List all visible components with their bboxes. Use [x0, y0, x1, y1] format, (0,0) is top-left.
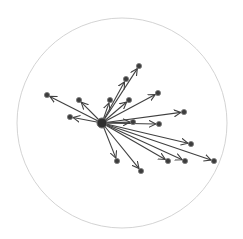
leaf-node[interactable]	[126, 97, 131, 102]
network-diagram	[0, 0, 243, 239]
leaf-node[interactable]	[76, 97, 81, 102]
edge-arrow	[102, 69, 137, 123]
leaf-node[interactable]	[107, 97, 112, 102]
edge-group	[50, 69, 211, 169]
leaf-node[interactable]	[130, 119, 135, 124]
edge-arrow	[102, 123, 156, 124]
leaf-node[interactable]	[138, 168, 143, 173]
leaf-node[interactable]	[114, 158, 119, 163]
leaf-node[interactable]	[67, 114, 72, 119]
leaf-node[interactable]	[182, 158, 187, 163]
leaf-node[interactable]	[211, 158, 216, 163]
edge-arrow	[50, 96, 102, 123]
leaf-node[interactable]	[155, 90, 160, 95]
leaf-node[interactable]	[156, 121, 161, 126]
edge-arrow	[102, 112, 181, 123]
leaf-node[interactable]	[123, 76, 128, 81]
leaf-node[interactable]	[188, 141, 193, 146]
edge-arrow	[102, 123, 188, 143]
leaf-node[interactable]	[44, 92, 49, 97]
leaf-node[interactable]	[181, 109, 186, 114]
hub-node[interactable]	[97, 118, 107, 128]
leaf-node[interactable]	[165, 158, 170, 163]
leaf-node[interactable]	[136, 63, 141, 68]
